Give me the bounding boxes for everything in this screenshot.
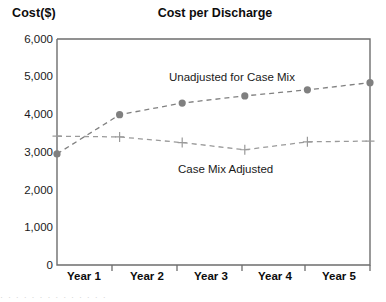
data-point-marker: [178, 138, 187, 148]
x-tick-label: Year 5: [322, 270, 356, 282]
series-adjusted: [53, 131, 375, 155]
data-point-marker: [241, 92, 248, 99]
x-tick-label: Year 4: [258, 270, 292, 282]
series-label-adjusted: Case Mix Adjusted: [178, 163, 273, 175]
page-edge-artifact: · · · · · · · · · · · · · ·: [0, 292, 386, 302]
chart-figure: Cost($) Cost per Discharge 6,000 5,000 4…: [0, 0, 386, 302]
data-point-marker: [366, 136, 375, 146]
data-point-marker: [116, 111, 123, 118]
data-point-marker: [366, 79, 373, 86]
data-point-marker: [240, 145, 249, 155]
data-point-marker: [53, 131, 62, 141]
series-line: [57, 83, 370, 154]
data-point-marker: [115, 132, 124, 142]
series-line: [57, 136, 370, 150]
x-tick-label: Year 3: [194, 270, 228, 282]
data-point-marker: [179, 99, 186, 106]
series-layer: [53, 79, 375, 157]
data-point-marker: [53, 150, 60, 157]
plot-area: [0, 0, 386, 302]
x-tick-label: Year 2: [130, 270, 164, 282]
data-point-marker: [304, 86, 311, 93]
series-label-unadjusted: Unadjusted for Case Mix: [169, 71, 295, 83]
x-tick-label: Year 1: [67, 270, 101, 282]
data-point-marker: [303, 137, 312, 147]
